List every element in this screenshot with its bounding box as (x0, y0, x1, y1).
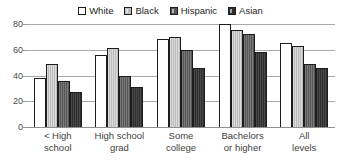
legend-item-hispanic[interactable]: Hispanic (170, 6, 217, 16)
bar-black-1[interactable] (107, 48, 119, 127)
gridline-0 (27, 127, 335, 128)
legend-swatch-hispanic-icon (170, 7, 178, 15)
bar-groups (27, 24, 335, 127)
bar-hispanic-4[interactable] (304, 64, 316, 127)
legend-label-black: Black (135, 6, 158, 16)
bar-hispanic-2[interactable] (181, 50, 193, 127)
bar-group-1 (95, 24, 143, 127)
legend-label-white: White (89, 6, 113, 16)
bar-group-0 (34, 24, 82, 127)
bar-white-0[interactable] (34, 78, 46, 127)
legend-swatch-asian-icon (228, 7, 236, 15)
bar-white-1[interactable] (95, 55, 107, 127)
bar-asian-1[interactable] (131, 87, 143, 127)
y-tick-label-40: 40 (13, 71, 23, 80)
plot-area: 020406080 (27, 24, 335, 127)
legend-label-hispanic: Hispanic (181, 6, 217, 16)
legend-swatch-black-icon (124, 7, 132, 15)
bar-black-0[interactable] (46, 64, 58, 127)
y-tick-label-0: 0 (18, 123, 23, 132)
bar-hispanic-1[interactable] (119, 76, 131, 128)
bar-asian-4[interactable] (316, 68, 328, 127)
y-tick-label-60: 60 (13, 45, 23, 54)
bar-hispanic-0[interactable] (58, 81, 70, 127)
bar-asian-3[interactable] (255, 52, 267, 127)
bar-black-3[interactable] (231, 30, 243, 127)
bar-white-2[interactable] (157, 39, 169, 127)
category-label-3: Bachelors or higher (212, 130, 274, 154)
bar-white-4[interactable] (280, 43, 292, 127)
bar-asian-0[interactable] (70, 92, 82, 127)
bar-group-2 (157, 24, 205, 127)
legend-swatch-white-icon (78, 7, 86, 15)
category-label-4: All levels (273, 130, 335, 154)
bar-asian-2[interactable] (193, 68, 205, 127)
bar-chart: White Black Hispanic Asian 020406080 < H… (0, 0, 341, 166)
x-axis-category-labels: < High schoolHigh school gradSome colleg… (27, 130, 335, 164)
chart-legend: White Black Hispanic Asian (0, 6, 341, 16)
legend-item-white[interactable]: White (78, 6, 113, 16)
bar-black-4[interactable] (292, 46, 304, 127)
y-tick-mark-0 (23, 127, 27, 128)
category-label-0: < High school (27, 130, 89, 154)
legend-item-black[interactable]: Black (124, 6, 158, 16)
legend-item-asian[interactable]: Asian (228, 6, 263, 16)
legend-label-asian: Asian (239, 6, 263, 16)
category-label-2: Some college (150, 130, 212, 154)
bar-group-3 (219, 24, 267, 127)
bar-hispanic-3[interactable] (243, 34, 255, 127)
bar-white-3[interactable] (219, 24, 231, 127)
bar-group-4 (280, 24, 328, 127)
bar-black-2[interactable] (169, 37, 181, 127)
category-label-1: High school grad (89, 130, 151, 154)
y-tick-label-20: 20 (13, 97, 23, 106)
y-tick-label-80: 80 (13, 20, 23, 29)
